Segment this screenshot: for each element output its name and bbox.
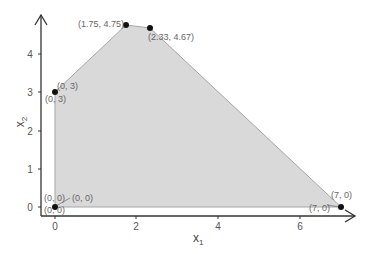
x-tick-label: 0 xyxy=(52,221,58,232)
point-label: (1.75, 4.75) xyxy=(78,19,124,29)
point-label: (2.33, 4.67) xyxy=(148,32,194,42)
point-label: (0, 3) xyxy=(45,94,66,104)
vertex-point-2.33-4.67 xyxy=(147,25,153,31)
point-label: (7, 0) xyxy=(309,203,330,213)
feasible-region xyxy=(55,25,341,207)
x-tick-label: 2 xyxy=(133,221,139,232)
y-axis-title: x2 xyxy=(13,116,29,127)
y-tick-label: 4 xyxy=(27,49,33,60)
point-label: (0, 0) xyxy=(44,193,65,203)
linear-programming-chart: 0 1 2 3 4 0 2 4 6 x1 x2 (0, 0 xyxy=(0,0,371,254)
y-tick-label: 0 xyxy=(27,202,33,213)
point-label: (7, 0) xyxy=(331,190,352,200)
point-label: (0, 0) xyxy=(44,205,65,215)
y-tick-label: 1 xyxy=(27,164,33,175)
x-tick-label: 6 xyxy=(297,221,303,232)
point-label: (0, 3) xyxy=(57,81,78,91)
y-axis-title-sub: 2 xyxy=(20,116,29,121)
x-axis-title: x1 xyxy=(193,231,204,247)
y-tick-label: 3 xyxy=(27,87,33,98)
x-axis-title-sub: 1 xyxy=(199,238,204,247)
chart-svg: 0 1 2 3 4 0 2 4 6 x1 x2 (0, 0 xyxy=(0,0,371,254)
y-tick-label: 2 xyxy=(27,126,33,137)
vertex-point-7-0 xyxy=(338,204,344,210)
point-label: (0, 0) xyxy=(72,193,93,203)
x-tick-label: 4 xyxy=(215,221,221,232)
